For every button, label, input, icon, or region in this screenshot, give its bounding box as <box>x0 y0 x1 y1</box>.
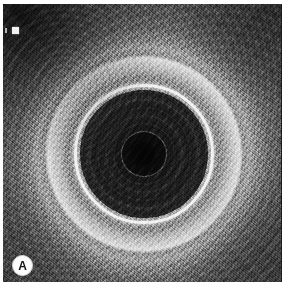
scale-tick-icon <box>5 28 7 33</box>
panel-label-text: A <box>18 260 27 272</box>
ultrasound-figure-panel: A <box>0 0 289 282</box>
page-margin-top <box>0 0 289 4</box>
ultrasound-scan-frame: A <box>3 4 282 282</box>
depth-scale-marker-icon <box>12 27 19 34</box>
panel-label-badge: A <box>12 255 33 276</box>
page-margin-left <box>0 0 3 282</box>
page-margin-right <box>282 0 289 282</box>
radial-beam-artifact <box>3 4 282 282</box>
